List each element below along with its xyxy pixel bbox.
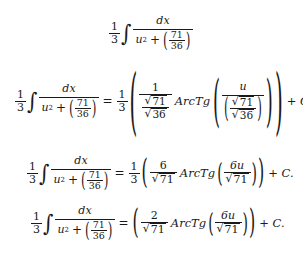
coefficient-fraction: 1 3 <box>31 211 42 235</box>
integral-sign: ∫ <box>39 162 49 185</box>
equation-line-1: 1 3 ∫ dx u2 + ( 71 36 ) <box>108 8 194 58</box>
constant-term: + C. <box>259 216 284 230</box>
argument-fraction: 6u √71 <box>224 160 251 185</box>
rhs-coefficient: 1 3 <box>117 89 128 113</box>
argument-fraction: u ( √71 √36 ) <box>222 81 264 121</box>
big-right-paren: ) <box>258 156 264 190</box>
equation-line-2: 1 3 ∫ dx u2 + ( 71 36 ) = 1 3 ( 1 √71 √3… <box>14 62 303 140</box>
equals-sign: = <box>103 94 113 108</box>
arg-right-paren: ) <box>243 210 248 237</box>
equation-line-3: 1 3 ∫ dx u2 + ( 71 36 ) = 1 3 ( 6 √71 Ar… <box>26 150 296 196</box>
arg-right-paren: ) <box>252 160 257 187</box>
integral-sign: ∫ <box>27 90 37 113</box>
outer-fraction: 1 √71 √36 <box>139 82 171 120</box>
coefficient-fraction: 1 3 <box>109 21 120 45</box>
outer-fraction: 6 √71 <box>150 160 177 185</box>
arctan-function: ArcTg <box>180 166 215 180</box>
big-left-paren: ( <box>133 206 139 240</box>
arg-left-paren: ( <box>213 73 220 129</box>
constant-term: + C. <box>287 94 303 108</box>
arctan-function: ArcTg <box>171 216 206 230</box>
equals-sign: = <box>119 216 129 230</box>
integrand-fraction: dx u2 + ( 71 36 ) <box>39 83 98 118</box>
outer-fraction: 2 √71 <box>141 210 168 235</box>
big-right-paren: ) <box>249 206 255 240</box>
coefficient-fraction: 1 3 <box>15 89 26 113</box>
coefficient-fraction: 1 3 <box>27 161 38 185</box>
constant-term: + C. <box>268 166 293 180</box>
big-left-paren: ( <box>130 65 138 137</box>
arg-right-paren: ) <box>266 73 273 129</box>
rhs-coefficient: 1 3 <box>129 161 140 185</box>
integral-sign: ∫ <box>43 212 53 235</box>
integrand-fraction: dx u2 + ( 71 36 ) <box>55 205 114 240</box>
integral-sign: ∫ <box>121 22 131 45</box>
inner-fraction: 71 36 <box>169 30 185 51</box>
big-left-paren: ( <box>142 156 148 190</box>
argument-fraction: 6u √71 <box>215 210 242 235</box>
integrand-fraction: dx u2 + ( 71 36 ) <box>133 15 192 50</box>
arg-left-paren: ( <box>217 160 222 187</box>
arctan-function: ArcTg <box>175 94 210 108</box>
equals-sign: = <box>115 166 125 180</box>
equation-line-4: 1 3 ∫ dx u2 + ( 71 36 ) = ( 2 √71 ArcTg … <box>30 200 287 246</box>
big-right-paren: ) <box>275 65 283 137</box>
arg-left-paren: ( <box>208 210 213 237</box>
integrand-fraction: dx u2 + ( 71 36 ) <box>51 155 110 190</box>
